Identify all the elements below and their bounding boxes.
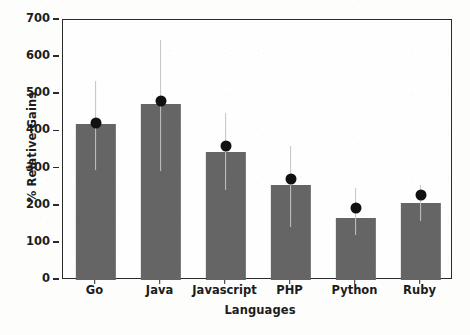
y-tick-mark bbox=[53, 18, 59, 20]
marker-python bbox=[350, 203, 361, 214]
y-tick-label: 400 bbox=[26, 122, 50, 136]
y-tick-label: 300 bbox=[26, 160, 50, 174]
marker-java bbox=[155, 95, 166, 106]
marker-go bbox=[90, 117, 101, 128]
marker-ruby bbox=[415, 189, 426, 200]
marker-php bbox=[285, 173, 296, 184]
plot-area bbox=[62, 19, 452, 279]
chart-figure: % Relative Gains Languages 0100200300400… bbox=[0, 0, 470, 335]
error-bar-php bbox=[290, 146, 292, 227]
y-tick-label: 500 bbox=[26, 85, 50, 99]
x-axis-title: Languages bbox=[60, 303, 460, 317]
y-tick-label: 0 bbox=[42, 271, 50, 285]
y-tick-label: 600 bbox=[26, 48, 50, 62]
x-tick-label-ruby: Ruby bbox=[403, 283, 436, 297]
y-tick-mark bbox=[53, 167, 59, 169]
y-tick-mark bbox=[53, 278, 59, 280]
marker-javascript bbox=[220, 141, 231, 152]
y-tick-mark bbox=[53, 55, 59, 57]
y-tick-mark bbox=[53, 241, 59, 243]
y-tick-mark bbox=[53, 204, 59, 206]
x-tick-label-java: Java bbox=[146, 283, 173, 297]
y-tick-label: 100 bbox=[26, 234, 50, 248]
y-tick-label: 200 bbox=[26, 197, 50, 211]
y-tick-mark bbox=[53, 130, 59, 132]
x-tick-label-php: PHP bbox=[276, 283, 302, 297]
x-tick-label-python: Python bbox=[332, 283, 378, 297]
x-tick-label-javascript: Javascript bbox=[192, 283, 256, 297]
x-tick-label-go: Go bbox=[86, 283, 103, 297]
y-tick-mark bbox=[53, 92, 59, 94]
y-tick-label: 700 bbox=[26, 11, 50, 25]
